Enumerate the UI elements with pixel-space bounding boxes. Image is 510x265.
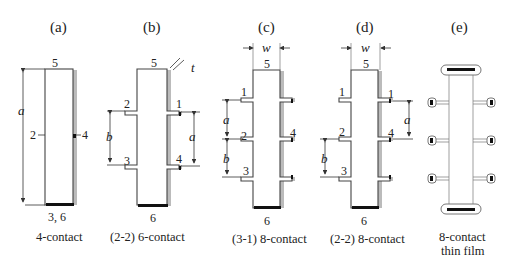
panel-c: (c) w 5 1 2 3 4 a b 6 (3-1) 8-contact <box>222 19 307 246</box>
svg-text:1: 1 <box>339 85 345 99</box>
svg-text:thin film: thin film <box>441 244 485 258</box>
caption-c: (3-1) 8-contact <box>232 232 307 246</box>
svg-text:t: t <box>191 60 195 75</box>
svg-text:a: a <box>18 103 25 118</box>
svg-text:2: 2 <box>124 97 130 111</box>
svg-text:4: 4 <box>290 126 296 140</box>
svg-text:4: 4 <box>82 128 88 142</box>
panel-a: (a) a 2 4 5 3, 6 4-contact <box>18 19 88 244</box>
caption-b: (2-2) 6-contact <box>110 230 185 244</box>
svg-text:6: 6 <box>264 214 270 228</box>
svg-text:a: a <box>189 129 196 144</box>
panel-label-a: (a) <box>50 19 67 36</box>
svg-text:a: a <box>223 112 230 127</box>
svg-text:2: 2 <box>241 129 247 143</box>
svg-text:4: 4 <box>176 152 182 166</box>
svg-text:b: b <box>106 129 113 144</box>
panel-e: (e) 8-contact thin film <box>428 19 495 258</box>
svg-text:3: 3 <box>243 164 249 178</box>
svg-text:w: w <box>262 40 271 55</box>
svg-text:3: 3 <box>124 154 130 168</box>
svg-text:5: 5 <box>52 56 58 70</box>
svg-text:(c): (c) <box>258 19 275 36</box>
svg-text:1: 1 <box>388 87 394 101</box>
caption-d: (2-2) 8-contact <box>330 232 405 246</box>
svg-text:2: 2 <box>30 128 36 142</box>
svg-text:w: w <box>361 40 370 55</box>
svg-text:b: b <box>223 151 230 166</box>
hall-bar-geometries-figure: (a) a 2 4 5 3, 6 4-contact (b) 5 t 2 3 1… <box>0 0 510 265</box>
svg-text:2: 2 <box>339 125 345 139</box>
svg-text:6: 6 <box>150 211 156 225</box>
svg-text:8-contact: 8-contact <box>439 230 486 244</box>
caption-a: 4-contact <box>36 230 83 244</box>
svg-text:5: 5 <box>363 57 369 71</box>
svg-text:(b): (b) <box>143 19 161 36</box>
panel-b: (b) 5 t 2 3 1 4 b a 6 (2-2) 6-contact <box>106 19 200 244</box>
svg-text:5: 5 <box>264 57 270 71</box>
figure-canvas: (a) a 2 4 5 3, 6 4-contact (b) 5 t 2 3 1… <box>0 0 510 265</box>
svg-text:6: 6 <box>361 214 367 228</box>
svg-text:(d): (d) <box>356 19 374 36</box>
svg-text:b: b <box>321 151 328 166</box>
svg-text:4: 4 <box>388 126 394 140</box>
svg-text:a: a <box>404 112 411 127</box>
svg-text:5: 5 <box>151 56 157 70</box>
svg-text:(e): (e) <box>451 19 468 36</box>
svg-text:3: 3 <box>341 164 347 178</box>
svg-text:1: 1 <box>241 85 247 99</box>
svg-text:3, 6: 3, 6 <box>48 210 66 224</box>
panel-d: (d) w 5 1 2 3 1 4 b a 6 (2-2) 8-contact <box>320 19 413 246</box>
svg-text:1: 1 <box>176 97 182 111</box>
